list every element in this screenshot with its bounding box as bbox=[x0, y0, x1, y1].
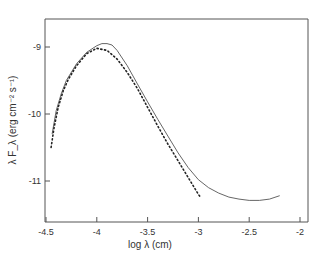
solid-line bbox=[52, 44, 280, 201]
y-axis-label: λ F_λ (erg cm⁻² s⁻¹) bbox=[7, 76, 18, 165]
x-tick-label: -2.5 bbox=[241, 227, 257, 237]
x-tick-label: -2 bbox=[296, 227, 304, 237]
x-tick-label: -4.5 bbox=[38, 227, 54, 237]
plot-frame bbox=[45, 19, 308, 222]
y-tick-label: -9 bbox=[33, 42, 41, 52]
x-tick-label: -3.5 bbox=[140, 227, 156, 237]
x-axis-label: log λ (cm) bbox=[128, 239, 172, 250]
dotted-line bbox=[51, 48, 200, 197]
series-group bbox=[51, 44, 280, 201]
x-tick-label: -4 bbox=[93, 227, 101, 237]
x-tick-label: -3 bbox=[194, 227, 202, 237]
chart: -4.5-4-3.5-3-2.5-2 -9-10-11 log λ (cm) λ… bbox=[0, 0, 319, 255]
y-tick-label: -11 bbox=[29, 176, 41, 186]
x-axis-ticks: -4.5-4-3.5-3-2.5-2 bbox=[38, 217, 304, 237]
y-axis-ticks: -9-10-11 bbox=[28, 42, 50, 186]
y-tick-label: -10 bbox=[28, 109, 41, 119]
